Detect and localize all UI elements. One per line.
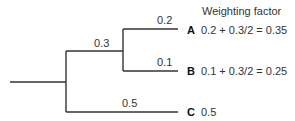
tree-lines [0, 0, 295, 121]
leaf-b-formula: 0.1 + 0.3/2 = 0.25 [201, 65, 287, 77]
branch-length-c: 0.5 [122, 97, 137, 109]
branch-length-a: 0.2 [157, 14, 172, 26]
branch-length-b: 0.1 [157, 56, 172, 68]
leaf-c-label: C [187, 106, 195, 118]
weighting-factor-header: Weighting factor [202, 5, 281, 17]
leaf-b-label: B [187, 65, 195, 77]
leaf-a-formula: 0.2 + 0.3/2 = 0.35 [201, 24, 287, 36]
branch-length-internal: 0.3 [94, 37, 109, 49]
leaf-a-label: A [187, 24, 195, 36]
leaf-c-formula: 0.5 [201, 106, 216, 118]
